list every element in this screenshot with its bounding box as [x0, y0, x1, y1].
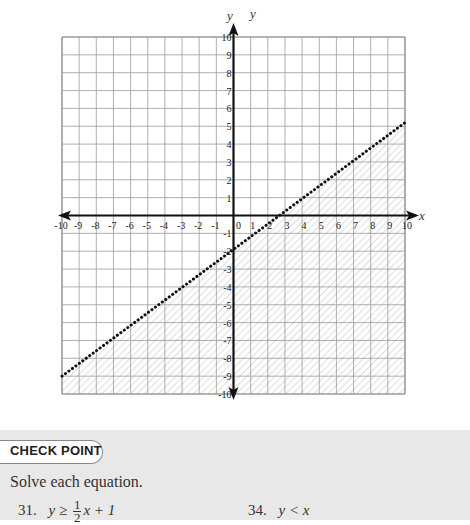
svg-text:-9: -9 [74, 220, 82, 231]
checkpoint-panel: CHECK POINT Solve each equation. 31. y ≥… [0, 430, 470, 520]
svg-text:-8: -8 [223, 353, 231, 364]
svg-text:-4: -4 [223, 282, 231, 293]
svg-text:-10: -10 [218, 389, 231, 400]
svg-text:-6: -6 [125, 220, 133, 231]
svg-text:8: 8 [227, 68, 232, 79]
svg-text:-5: -5 [223, 300, 231, 311]
svg-text:1: 1 [227, 193, 232, 204]
svg-text:-8: -8 [91, 220, 99, 231]
svg-text:-10: -10 [54, 220, 67, 231]
svg-text:10: 10 [222, 32, 232, 43]
svg-text:-4: -4 [160, 220, 168, 231]
svg-text:3: 3 [284, 220, 289, 231]
svg-text:2: 2 [267, 220, 272, 231]
svg-text:4: 4 [302, 220, 307, 231]
fraction: 1 2 [73, 499, 82, 524]
svg-text:-5: -5 [143, 220, 151, 231]
svg-text:5: 5 [227, 121, 232, 132]
svg-text:-7: -7 [108, 220, 116, 231]
y-axis-label-extra: y [250, 6, 256, 22]
svg-text:0: 0 [236, 220, 241, 231]
coordinate-graph: -10-9-8-7-6-5-4-3-2-1012345678910-10-9-8… [0, 0, 470, 420]
problem-number: 31. [18, 502, 37, 518]
y-axis-label: y [227, 8, 233, 24]
svg-text:-7: -7 [223, 335, 231, 346]
svg-text:7: 7 [353, 220, 358, 231]
svg-text:1: 1 [250, 220, 255, 231]
checkpoint-title: CHECK POINT [10, 443, 102, 458]
instruction-text: Solve each equation. [10, 473, 143, 491]
svg-text:-6: -6 [223, 318, 231, 329]
svg-text:-2: -2 [223, 246, 231, 257]
problem-expression: y < x [279, 502, 310, 518]
svg-text:-9: -9 [223, 371, 231, 382]
problem-number: 34. [248, 502, 267, 518]
problem-34: 34. y < x [248, 502, 309, 519]
svg-text:2: 2 [227, 175, 232, 186]
x-axis-label: x [419, 208, 425, 224]
svg-text:-2: -2 [194, 220, 202, 231]
svg-text:9: 9 [227, 50, 232, 61]
svg-text:-3: -3 [177, 220, 185, 231]
svg-text:8: 8 [370, 220, 375, 231]
svg-text:-1: -1 [211, 220, 219, 231]
problem-rhs: x + 1 [83, 502, 115, 518]
problem-lhs: y [49, 502, 56, 518]
problem-31: 31. y ≥ 1 2 x + 1 [18, 499, 115, 524]
svg-text:-3: -3 [223, 264, 231, 275]
problem-operator: ≥ [59, 502, 67, 518]
svg-text:6: 6 [336, 220, 341, 231]
svg-text:10: 10 [402, 220, 412, 231]
svg-text:-1: -1 [223, 228, 231, 239]
svg-text:9: 9 [387, 220, 392, 231]
svg-text:5: 5 [319, 220, 324, 231]
svg-text:4: 4 [227, 139, 232, 150]
svg-text:6: 6 [227, 103, 232, 114]
svg-text:3: 3 [227, 157, 232, 168]
svg-text:7: 7 [227, 86, 232, 97]
